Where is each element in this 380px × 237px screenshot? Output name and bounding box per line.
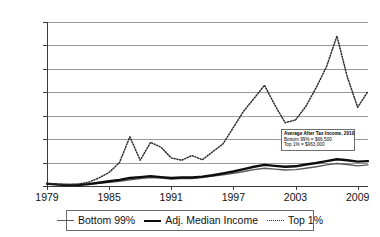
annotation-callout: Average After Tax Income, 2010 Bottom 99… [281, 129, 355, 151]
legend-label-adj-median-income: Adj. Median Income [165, 215, 258, 226]
series-line-bottom-99 [47, 164, 368, 185]
chart-legend: Bottom 99% Adj. Median Income Top 1% [66, 210, 314, 231]
legend-swatch-solid-thin-icon [57, 218, 74, 224]
legend-item-top-1: Top 1% [267, 215, 323, 226]
annotation-top1: Top 1% = $963,000 [284, 142, 352, 148]
series-line-adj-median-income [47, 159, 368, 185]
legend-swatch-solid-thick-icon [144, 218, 161, 224]
series-layer [0, 0, 380, 237]
chart-container: 345%295%245%195%145%95%45%-5% 1979198519… [0, 0, 380, 237]
legend-item-adj-median-income: Adj. Median Income [144, 215, 258, 226]
legend-label-top-1: Top 1% [288, 215, 323, 226]
annotation-title: Average After Tax Income, 2010 [284, 131, 352, 137]
legend-label-bottom-99: Bottom 99% [78, 215, 135, 226]
legend-swatch-dotted-icon [267, 218, 284, 224]
legend-item-bottom-99: Bottom 99% [57, 215, 135, 226]
